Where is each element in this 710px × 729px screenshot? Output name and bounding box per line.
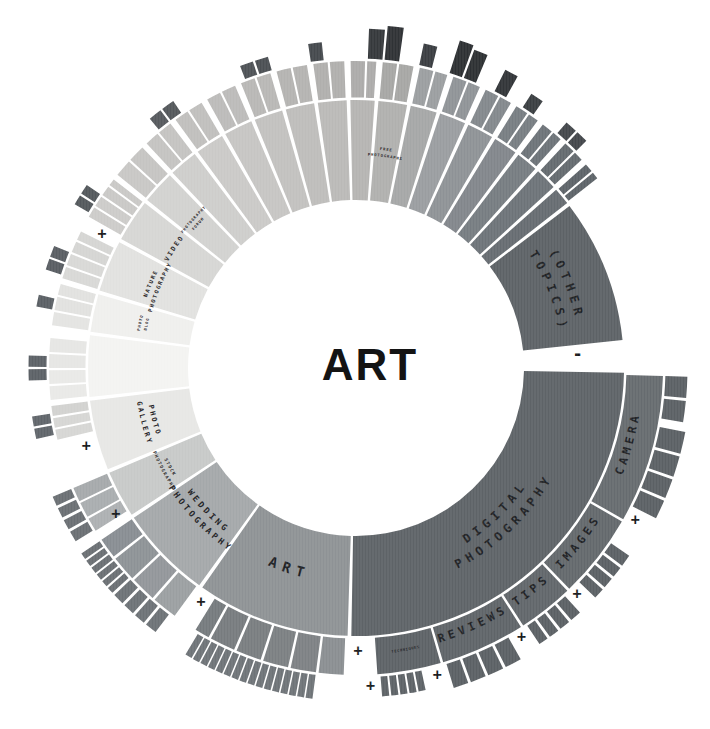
expand-marker[interactable]: + bbox=[631, 511, 640, 529]
leaf-bar-31[interactable] bbox=[29, 369, 47, 380]
subsegment-ring2-6[interactable] bbox=[291, 632, 321, 672]
leaf-bar-18[interactable] bbox=[381, 676, 390, 697]
leaf-bar-1[interactable] bbox=[661, 399, 686, 422]
subsegment-ring2-50[interactable] bbox=[351, 61, 365, 98]
expand-marker[interactable]: + bbox=[353, 642, 362, 660]
leaf-bar-18[interactable] bbox=[406, 672, 416, 693]
subsegment-ring2-21[interactable] bbox=[50, 384, 87, 400]
expand-marker[interactable]: + bbox=[573, 585, 582, 603]
segment-ring1-16[interactable] bbox=[350, 100, 374, 200]
leaf-bar-29[interactable] bbox=[34, 425, 54, 438]
leaf-bar-35[interactable] bbox=[50, 246, 69, 262]
leaf-bar-32[interactable] bbox=[29, 355, 47, 366]
center-topic-label: ART bbox=[322, 340, 418, 389]
leaf-bar-42[interactable] bbox=[308, 42, 323, 62]
leaf-bar-0[interactable] bbox=[664, 376, 687, 398]
leaf-bar-2[interactable] bbox=[655, 427, 685, 454]
subsegment-ring2-52[interactable] bbox=[380, 62, 398, 100]
subsegment-ring2-49[interactable] bbox=[330, 61, 346, 98]
subsegment-ring2-48[interactable] bbox=[313, 62, 331, 100]
expand-marker[interactable]: + bbox=[517, 628, 526, 646]
segment-untitled-pale[interactable] bbox=[88, 335, 189, 397]
expand-marker[interactable]: + bbox=[196, 593, 205, 611]
leaf-bar-3[interactable] bbox=[649, 450, 680, 477]
subsegment-ring2-23[interactable] bbox=[49, 354, 86, 368]
leaf-bar-18[interactable] bbox=[415, 671, 426, 692]
leaf-bar-34[interactable] bbox=[46, 259, 65, 275]
leaf-bar-41[interactable] bbox=[255, 57, 272, 74]
expand-marker[interactable]: + bbox=[366, 677, 375, 695]
segment-digital-photography[interactable] bbox=[351, 371, 624, 636]
leaf-bar-33[interactable] bbox=[36, 295, 54, 310]
sunburst-chart[interactable]: DIGITALPHOTOGRAPHYARTWEDDINGPHOTOGRAPHYS… bbox=[0, 0, 710, 729]
collapse-marker[interactable]: - bbox=[572, 344, 582, 364]
subsegment-ring2-51[interactable] bbox=[366, 61, 376, 98]
subsegment-ring2-24[interactable] bbox=[49, 338, 86, 354]
leaf-bar-18[interactable] bbox=[398, 674, 408, 695]
expand-marker[interactable]: + bbox=[98, 225, 107, 243]
subsegment-ring2-5[interactable] bbox=[319, 636, 346, 674]
subsegment-ring2-53[interactable] bbox=[394, 64, 413, 102]
leaf-bar-30[interactable] bbox=[32, 414, 51, 427]
leaf-bar-40[interactable] bbox=[240, 61, 257, 79]
leaf-bar-18[interactable] bbox=[389, 675, 398, 696]
leaf-bar-45[interactable] bbox=[419, 44, 437, 68]
leaf-bar-48[interactable] bbox=[495, 70, 518, 98]
leaf-bar-49[interactable] bbox=[523, 94, 543, 115]
segment-other-topics[interactable] bbox=[490, 206, 623, 350]
expand-marker[interactable]: + bbox=[82, 437, 91, 455]
expand-marker[interactable]: + bbox=[111, 505, 120, 523]
sunburst-visualization: DIGITALPHOTOGRAPHYARTWEDDINGPHOTOGRAPHYS… bbox=[0, 0, 710, 729]
leaf-bar-44[interactable] bbox=[385, 26, 404, 62]
leaf-bar-43[interactable] bbox=[368, 29, 385, 60]
subsegment-ring2-22[interactable] bbox=[49, 370, 86, 384]
expand-marker[interactable]: + bbox=[433, 666, 442, 684]
